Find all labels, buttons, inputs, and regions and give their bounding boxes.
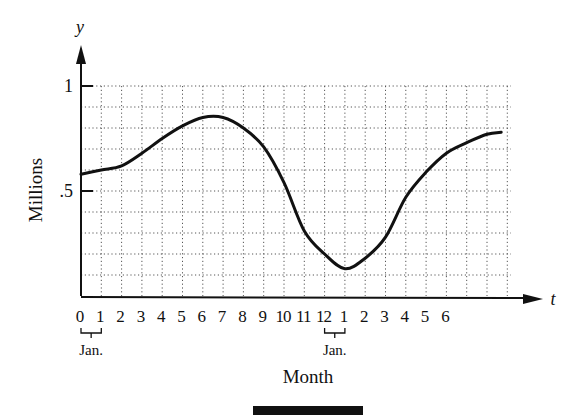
y-tick-label: .5: [60, 181, 74, 201]
x-tick-label: 3: [137, 307, 146, 326]
data-curve: [81, 116, 501, 268]
month-annotations: Jan.Jan.: [79, 328, 346, 358]
x-tick-labels: 0123456789101112123456: [76, 307, 450, 326]
x-tick-label: 6: [441, 307, 450, 326]
x-tick-label: 1: [96, 307, 105, 326]
x-tick-label: 11: [296, 307, 311, 326]
x-axis-arrow-icon: [523, 294, 543, 304]
chart: 1.5 0123456789101112123456 Jan.Jan. y t …: [0, 0, 578, 418]
x-tick-label: 4: [401, 307, 410, 326]
jan-annotation: Jan.: [79, 342, 103, 358]
x-tick-label: 12: [316, 307, 332, 326]
y-ticks: 1.5: [60, 76, 94, 201]
x-tick-label: 7: [218, 307, 227, 326]
x-axis: [81, 297, 526, 298]
jan-bracket: [81, 328, 101, 338]
x-tick-label: 0: [76, 307, 85, 326]
y-axis-label: Millions: [25, 158, 46, 222]
y-tick-label: 1: [64, 76, 73, 96]
x-axis-symbol: t: [550, 289, 556, 309]
x-tick-label: 2: [360, 307, 369, 326]
y-axis-arrow-icon: [76, 45, 86, 64]
axes: [76, 45, 543, 304]
x-tick-label: 4: [157, 307, 166, 326]
jan-annotation: Jan.: [323, 342, 347, 358]
x-tick-label: 3: [380, 307, 389, 326]
x-tick-label: 2: [116, 307, 125, 326]
y-axis-symbol: y: [74, 17, 84, 37]
x-tick-label: 6: [198, 307, 207, 326]
x-axis-label: Month: [283, 366, 334, 387]
decorative-bar: [253, 406, 363, 415]
grid-lines: [81, 86, 511, 296]
x-tick-label: 5: [177, 307, 186, 326]
x-tick-label: 10: [276, 307, 292, 326]
jan-bracket: [325, 328, 345, 338]
x-tick-label: 8: [238, 307, 247, 326]
x-tick-label: 9: [258, 307, 267, 326]
x-tick-label: 5: [421, 307, 430, 326]
x-tick-label: 1: [340, 307, 349, 326]
